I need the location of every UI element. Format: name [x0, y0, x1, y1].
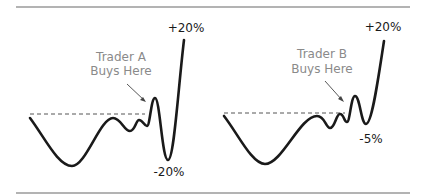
trader-comparison-diagram: Trader A Buys Here +20% -20% Trader B Bu… — [0, 0, 424, 196]
arrow-icon — [325, 81, 342, 100]
annotation-line1: Trader A — [95, 50, 147, 64]
panel-trader-b: Trader B Buys Here +20% -5% — [224, 20, 401, 164]
gain-label: +20% — [168, 21, 205, 35]
drawdown-label: -20% — [153, 165, 184, 179]
annotation-line1: Trader B — [296, 47, 347, 61]
annotation-line2: Buys Here — [90, 64, 151, 78]
gain-label: +20% — [365, 20, 402, 34]
panel-trader-a: Trader A Buys Here +20% -20% — [30, 21, 204, 179]
annotation-line2: Buys Here — [291, 62, 352, 76]
drawdown-label: -5% — [359, 132, 382, 146]
arrowhead-icon — [140, 97, 146, 102]
